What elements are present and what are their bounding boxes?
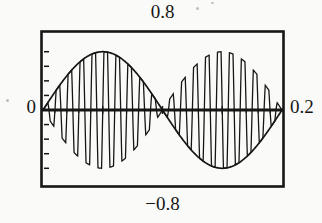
scan-speckle [6,99,9,102]
scan-speckle [211,2,214,4]
plot-canvas [0,0,322,223]
scan-speckle [196,7,199,10]
figure: 0.8 −0.8 0 0.2 [0,0,322,223]
